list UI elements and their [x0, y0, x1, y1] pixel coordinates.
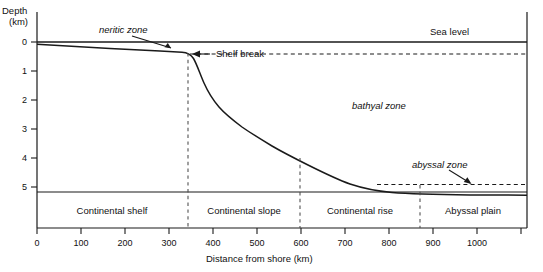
y-axis-title: Depth (km): [2, 6, 28, 28]
x-tick-label-400: 400: [205, 239, 220, 248]
y-tick-label-1: 1: [14, 67, 27, 76]
x-tick-label-800: 800: [381, 239, 396, 248]
x-tick-label-600: 600: [293, 239, 308, 248]
x-tick-label-100: 100: [73, 239, 88, 248]
abyssal-zone-label: abyssal zone: [412, 160, 467, 170]
y-axis-title-line1: Depth: [2, 5, 27, 16]
zone-label-abyssal-plain: Abyssal plain: [445, 206, 501, 216]
y-axis-ticks: [31, 42, 37, 187]
profile-plot-svg: [0, 0, 543, 272]
zone-boundary-dashed-lines: [188, 53, 420, 228]
x-tick-label-700: 700: [337, 239, 352, 248]
zone-label-continental-shelf: Continental shelf: [77, 206, 148, 216]
bathyal-zone-label: bathyal zone: [352, 101, 406, 111]
shelf-break-label: Shelf break: [216, 49, 264, 59]
y-tick-label-0: 0: [14, 38, 27, 47]
plot-frame: [37, 12, 527, 228]
x-tick-label-0: 0: [34, 239, 39, 248]
y-tick-label-2: 2: [14, 96, 27, 105]
x-tick-label-900: 900: [425, 239, 440, 248]
seafloor-profile-figure: Depth (km) 0 1 2 3 4 5 0 100 200 300 400…: [0, 0, 543, 272]
abyssal-zone-arrow: [449, 170, 472, 184]
shelf-break-arrow: [192, 51, 210, 58]
zone-label-continental-slope: Continental slope: [207, 206, 280, 216]
x-tick-label-1000: 1000: [467, 239, 487, 248]
y-tick-label-3: 3: [14, 125, 27, 134]
y-axis-title-line2: (km): [2, 17, 28, 28]
neritic-zone-label: neritic zone: [99, 25, 148, 35]
x-tick-label-200: 200: [117, 239, 132, 248]
x-axis-title: Distance from shore (km): [206, 254, 313, 265]
zone-label-continental-rise: Continental rise: [327, 206, 393, 216]
y-tick-label-5: 5: [14, 183, 27, 192]
x-axis-ticks: [37, 228, 521, 234]
sea-level-label: Sea level: [430, 27, 469, 37]
x-tick-label-500: 500: [249, 239, 264, 248]
x-tick-label-300: 300: [161, 239, 176, 248]
y-tick-label-4: 4: [14, 154, 27, 163]
